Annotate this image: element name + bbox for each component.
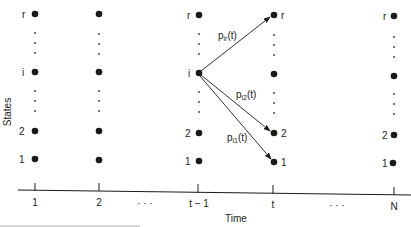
state-node-i [32, 69, 39, 76]
state-label-2: 2 [185, 128, 191, 139]
time-axis-line [18, 190, 411, 195]
time-column-N: r 2 1 [382, 11, 397, 169]
state-label-2: 2 [19, 126, 25, 137]
time-tick-label-t-minus-1: t − 1 [189, 198, 209, 209]
time-tick-label-N: N [390, 201, 397, 212]
state-label-i: i [22, 67, 24, 78]
state-label-1: 1 [281, 157, 287, 168]
state-label-1: 1 [185, 156, 191, 167]
time-column-t-minus-1: r i 2 1 [185, 10, 202, 167]
state-node-2 [32, 128, 39, 135]
time-column-1: r i 2 1 [19, 9, 38, 165]
state-label-2: 2 [382, 130, 388, 141]
transition-label-pir: pir(t) [218, 30, 237, 42]
state-label-r: r [187, 10, 191, 21]
x-axis-label: Time [225, 213, 247, 224]
state-label-r: r [281, 10, 285, 21]
time-column-2 [96, 11, 103, 164]
time-ellipsis: · · · [137, 198, 153, 209]
caption-residue [0, 225, 140, 227]
state-node-r [32, 11, 39, 18]
transition-label-pi1: pi1(t) [227, 132, 247, 144]
time-column-t: r 2 1 [271, 10, 287, 168]
state-label-i: i [188, 68, 190, 79]
y-axis-label: States [2, 98, 13, 126]
time-tick-label-t: t [272, 199, 275, 210]
time-ellipsis: · · · [329, 200, 345, 211]
transition-arrow-i-to-r [201, 17, 270, 71]
transition-label-pi2: pi2(t) [236, 89, 256, 101]
transition-arrow-i-to-2 [201, 75, 270, 131]
state-label-1: 1 [19, 154, 25, 165]
time-tick-label-1: 1 [32, 197, 38, 208]
state-label-r: r [22, 9, 26, 20]
state-label-1: 1 [382, 158, 388, 169]
state-node-1 [32, 156, 39, 163]
time-tick-label-2: 2 [96, 197, 102, 208]
state-label-2: 2 [281, 128, 287, 139]
markov-chain-trellis-diagram: States r i 2 1 r i 2 1 [0, 0, 411, 227]
state-label-r: r [383, 11, 387, 22]
